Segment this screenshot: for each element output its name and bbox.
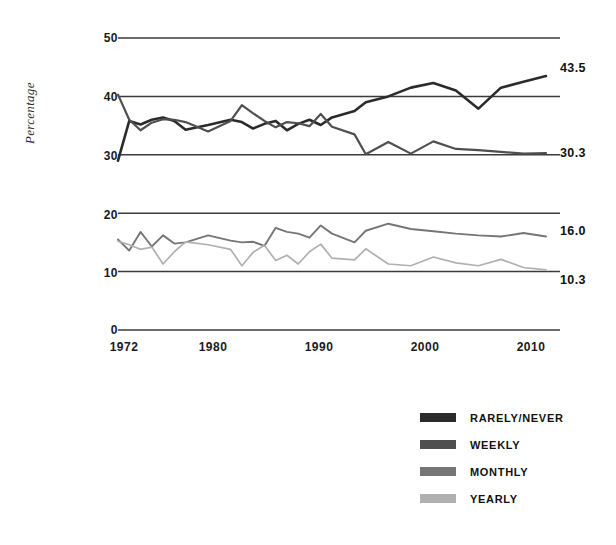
- legend-swatch-monthly: [420, 467, 456, 476]
- legend-item-monthly: MONTHLY: [420, 458, 610, 485]
- series-lines: [118, 76, 546, 270]
- x-tick-1980: 1980: [183, 340, 243, 354]
- x-tick-2010: 2010: [501, 340, 561, 354]
- line-chart: Percentage 50 40 30 20 10 0 1972 1980 19…: [0, 0, 616, 545]
- end-label-rarely-never: 43.5: [560, 61, 586, 75]
- legend-swatch-rarely-never: [420, 413, 456, 422]
- y-tick-10: 10: [78, 266, 118, 280]
- legend-swatch-weekly: [420, 440, 456, 449]
- end-label-monthly: 16.0: [560, 224, 586, 238]
- y-tick-20: 20: [78, 208, 118, 222]
- series-line-monthly: [118, 224, 546, 251]
- x-tick-2000: 2000: [395, 340, 455, 354]
- legend-label-monthly: MONTHLY: [470, 466, 528, 478]
- series-line-yearly: [118, 241, 546, 270]
- end-label-yearly: 10.3: [560, 273, 586, 287]
- end-label-weekly: 30.3: [560, 146, 586, 160]
- legend-label-rarely-never: RARELY/NEVER: [470, 412, 564, 424]
- y-axis-title: Percentage: [22, 108, 38, 144]
- x-tick-1990: 1990: [289, 340, 349, 354]
- series-line-weekly: [118, 95, 546, 155]
- legend: RARELY/NEVER WEEKLY MONTHLY YEARLY: [420, 404, 610, 512]
- legend-item-yearly: YEARLY: [420, 485, 610, 512]
- gridlines: [118, 38, 560, 330]
- legend-item-weekly: WEEKLY: [420, 431, 610, 458]
- y-tick-50: 50: [78, 31, 118, 45]
- x-tick-1972: 1972: [94, 340, 154, 354]
- y-tick-40: 40: [78, 90, 118, 104]
- legend-label-yearly: YEARLY: [470, 493, 518, 505]
- legend-item-rarely-never: RARELY/NEVER: [420, 404, 610, 431]
- y-tick-30: 30: [78, 149, 118, 163]
- legend-swatch-yearly: [420, 494, 456, 503]
- legend-label-weekly: WEEKLY: [470, 439, 520, 451]
- series-line-rarely-never: [118, 76, 546, 161]
- y-tick-0: 0: [78, 323, 118, 337]
